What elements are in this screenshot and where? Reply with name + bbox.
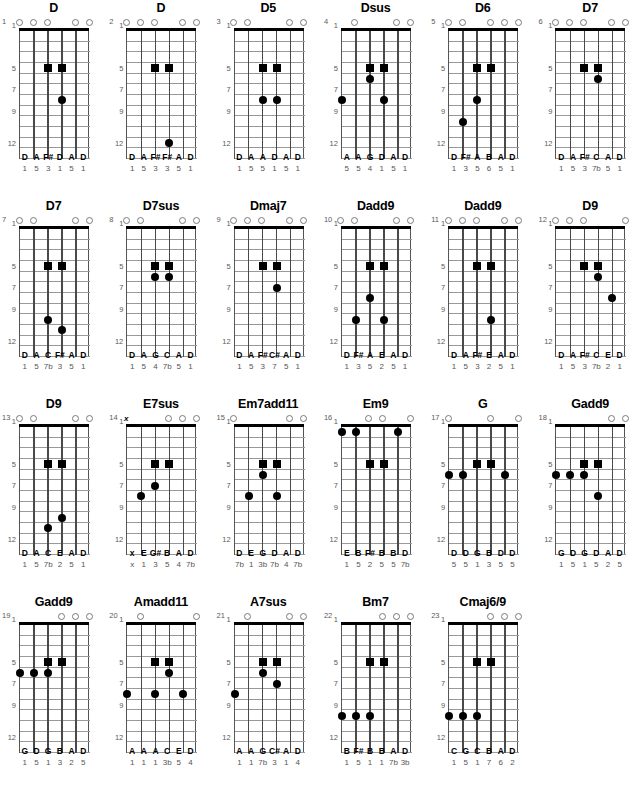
- chord-diagram[interactable]: D76157912DAF#CAD1537b51: [536, 0, 643, 198]
- fret-line: [342, 115, 412, 116]
- fret-number: 5: [12, 65, 16, 73]
- chord-diagram[interactable]: Dsus4157912AAGDAD554151: [322, 0, 429, 198]
- finger-marker-dot: [380, 96, 388, 104]
- finger-marker-dot: [58, 326, 66, 334]
- note-name: E: [245, 548, 257, 558]
- chord-diagram[interactable]: Dadd910157912DF#AEAD135251: [322, 198, 429, 396]
- chord-diagram[interactable]: D65157912DF#ABAD135651: [429, 0, 536, 198]
- note-name: A: [138, 152, 150, 162]
- fret-grid: [126, 31, 196, 159]
- interval-degree: 7: [269, 362, 281, 372]
- fret-number-gutter: 157912: [215, 21, 232, 149]
- open-string-icon: [473, 217, 480, 224]
- string-line: [504, 229, 505, 357]
- finger-marker-dot: [338, 428, 346, 436]
- chord-diagram[interactable]: D7sus8157912DAGCAD1547b51: [107, 198, 214, 396]
- finger-marker-dot: [366, 712, 374, 720]
- chord-diagram[interactable]: Dmaj79157912DAF#C#AD153751: [215, 198, 322, 396]
- note-name: D: [292, 350, 304, 360]
- open-string-icon: [351, 19, 358, 26]
- chord-diagram[interactable]: D53157912DAADAD155151: [215, 0, 322, 198]
- interval-degree: 5: [376, 560, 388, 570]
- fret-line: [127, 115, 197, 116]
- fret-line: [556, 260, 626, 261]
- fret-line: [235, 115, 305, 116]
- interval-degree: 3: [161, 164, 173, 174]
- fret-line: [449, 281, 519, 282]
- open-string-icon: [351, 217, 358, 224]
- chord-diagram[interactable]: D1157912DAF#DAD153151: [0, 0, 107, 198]
- fret-number: 5: [441, 65, 445, 73]
- chord-diagram[interactable]: Dadd911157912DAF#EAD153251: [429, 198, 536, 396]
- chord-diagram[interactable]: D2157912DAF#F#AD153351: [107, 0, 214, 198]
- fret-line: [20, 656, 90, 657]
- string-line: [75, 427, 76, 555]
- interval-degree: 5: [567, 362, 579, 372]
- fret-number: 9: [334, 504, 338, 512]
- fret-number: 12: [8, 734, 16, 742]
- fret-line: [556, 447, 626, 448]
- interval-degree: 3: [54, 758, 66, 768]
- fret-grid: [341, 229, 411, 357]
- chord-diagram[interactable]: D77157912DACF#AD157b351: [0, 198, 107, 396]
- interval-degree: 1: [234, 362, 246, 372]
- fret-line: [235, 667, 305, 668]
- open-string-icon: [580, 217, 587, 224]
- interval-degree: 1: [150, 758, 162, 768]
- open-string-icon: [407, 217, 414, 224]
- chord-diagram[interactable]: Em916157912EBF#BBD152557b: [322, 396, 429, 594]
- finger-marker-square: [580, 64, 588, 72]
- note-name: B: [54, 746, 66, 756]
- note-name: D: [614, 548, 626, 558]
- fret-line: [20, 281, 90, 282]
- string-line: [47, 427, 48, 555]
- string-line: [75, 31, 76, 159]
- open-string-icon: [72, 415, 79, 422]
- note-name-row: DACEAD: [19, 548, 89, 558]
- chord-diagram[interactable]: Gadd919157912GDGBAD151325: [0, 594, 107, 794]
- finger-marker-square: [259, 64, 267, 72]
- interval-degree: x: [126, 560, 138, 570]
- chord-diagram[interactable]: A7sus21157912AAGC#AD117b314: [215, 594, 322, 794]
- open-string-icon: [379, 415, 386, 422]
- fret-line: [449, 94, 519, 95]
- interval-degree: 1: [19, 164, 31, 174]
- string-line: [369, 427, 370, 555]
- note-name: D: [448, 548, 460, 558]
- chord-diagram[interactable]: Em7add1115157912DEGDAD7b13b7b47b: [215, 396, 322, 594]
- chord-diagram[interactable]: Cmaj6/923157912CGCBAD151762: [429, 594, 536, 794]
- open-string-icon: [86, 19, 93, 26]
- interval-degree: 4: [150, 362, 162, 372]
- fret-number: 5: [226, 461, 230, 469]
- chord-diagram[interactable]: D912157912DAF#CED1537b21: [536, 198, 643, 396]
- open-string-icon: [244, 217, 251, 224]
- string-line: [276, 229, 277, 357]
- chord-diagram[interactable]: D913157912DACEAD157b251: [0, 396, 107, 594]
- chord-diagram[interactable]: Gadd918157912GDGDAD151525: [536, 396, 643, 594]
- string-line: [504, 427, 505, 555]
- chord-diagram[interactable]: G17157912DDGBDD551355: [429, 396, 536, 594]
- finger-marker-dot: [273, 492, 281, 500]
- note-name: C#: [269, 350, 281, 360]
- fret-line: [235, 699, 305, 700]
- interval-degree-row: 1113b54: [126, 758, 196, 768]
- finger-marker-square: [473, 460, 481, 468]
- finger-marker-dot: [44, 316, 52, 324]
- open-string-icon: [151, 19, 158, 26]
- finger-marker-square: [473, 262, 481, 270]
- fret-line: [127, 688, 197, 689]
- fret-line: [342, 281, 412, 282]
- chord-diagram[interactable]: Amadd1120157912AAACED1113b54: [107, 594, 214, 794]
- string-line: [397, 31, 398, 159]
- fret-line: [556, 271, 626, 272]
- finger-marker-square: [594, 262, 602, 270]
- interval-degree: 1: [245, 560, 257, 570]
- string-line: [462, 427, 463, 555]
- fret-line: [449, 249, 519, 250]
- finger-marker-dot: [366, 75, 374, 83]
- string-line: [75, 625, 76, 753]
- chord-diagram[interactable]: Bm722157912BF#BBAD15117b3b: [322, 594, 429, 794]
- note-name: F#: [579, 350, 591, 360]
- string-line: [490, 625, 491, 753]
- chord-diagram[interactable]: E7sus14157912xxEG#BADx13547b: [107, 396, 214, 594]
